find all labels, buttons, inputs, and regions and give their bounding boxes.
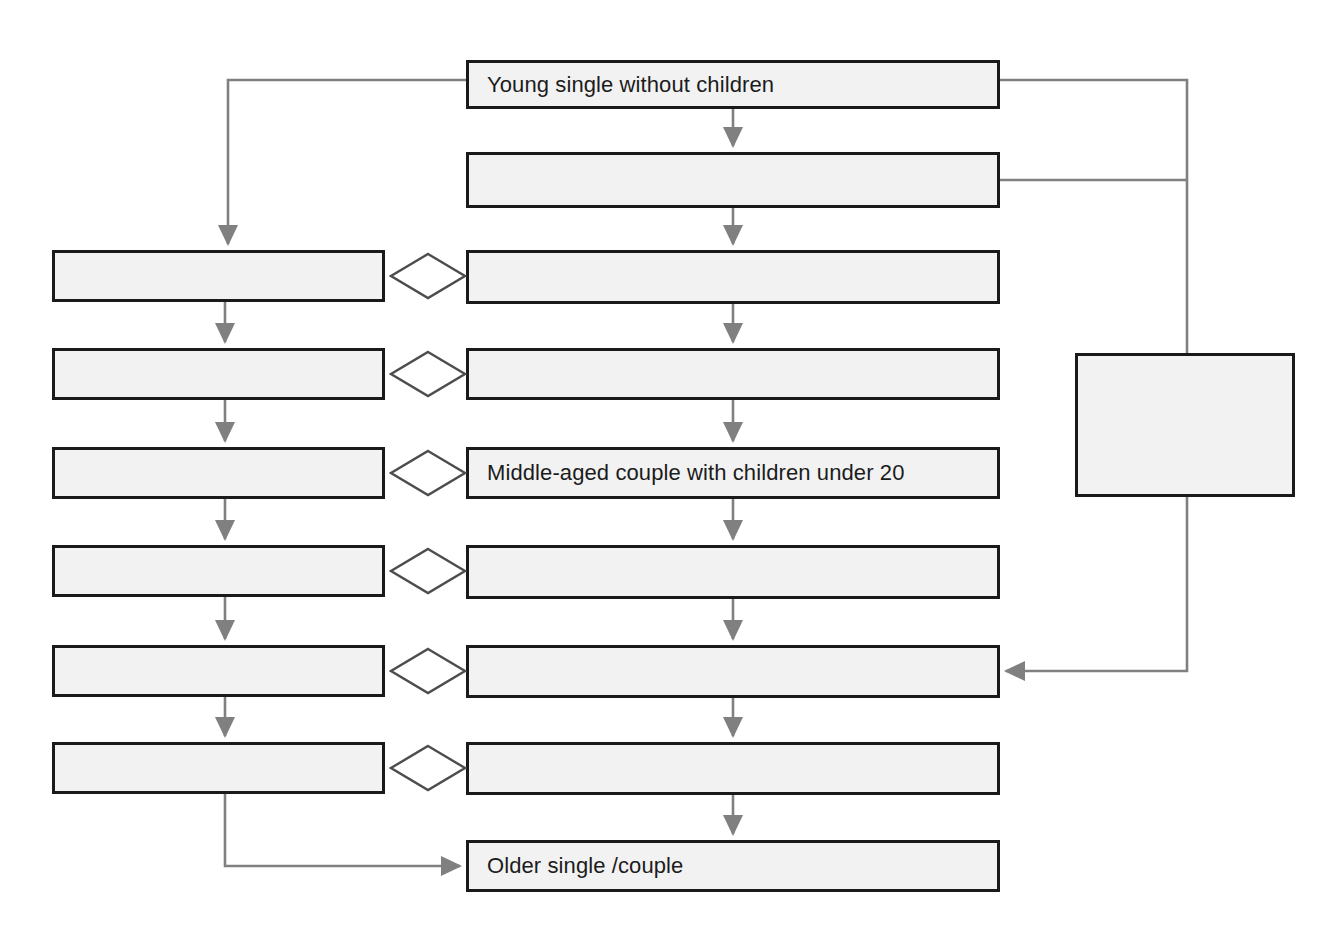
node-r1[interactable] — [1075, 353, 1295, 497]
decision-diamond-d6[interactable] — [389, 744, 467, 792]
edge-e-r1-m7 — [1006, 497, 1187, 671]
diamond-shape — [391, 549, 465, 593]
node-m7[interactable] — [466, 645, 1000, 698]
node-label-m5: Middle-aged couple with children under 2… — [469, 460, 914, 485]
node-label-m9: Older single /couple — [469, 853, 693, 878]
flowchart-canvas: Young single without childrenMiddle-aged… — [0, 0, 1342, 932]
node-l3[interactable] — [52, 447, 385, 499]
diamond-shape — [391, 352, 465, 396]
edge-e-m1-l1 — [228, 80, 466, 244]
edge-e-l6-m9 — [225, 794, 460, 866]
node-l1[interactable] — [52, 250, 385, 302]
node-l2[interactable] — [52, 348, 385, 400]
node-m9[interactable]: Older single /couple — [466, 840, 1000, 892]
diamond-shape — [391, 254, 465, 298]
diamond-shape — [391, 649, 465, 693]
node-label-m1: Young single without children — [469, 72, 784, 97]
node-m3[interactable] — [466, 250, 1000, 304]
node-m1[interactable]: Young single without children — [466, 60, 1000, 109]
node-m4[interactable] — [466, 348, 1000, 400]
decision-diamond-d1[interactable] — [389, 252, 467, 300]
decision-diamond-d3[interactable] — [389, 449, 467, 497]
diamond-shape — [391, 451, 465, 495]
node-l4[interactable] — [52, 545, 385, 597]
edge-e-m1-r1 — [1000, 80, 1187, 353]
node-l5[interactable] — [52, 645, 385, 697]
node-m6[interactable] — [466, 545, 1000, 599]
diamond-shape — [391, 746, 465, 790]
decision-diamond-d2[interactable] — [389, 350, 467, 398]
decision-diamond-d4[interactable] — [389, 547, 467, 595]
node-m8[interactable] — [466, 742, 1000, 795]
node-m5[interactable]: Middle-aged couple with children under 2… — [466, 447, 1000, 499]
node-l6[interactable] — [52, 742, 385, 794]
node-m2[interactable] — [466, 152, 1000, 208]
decision-diamond-d5[interactable] — [389, 647, 467, 695]
